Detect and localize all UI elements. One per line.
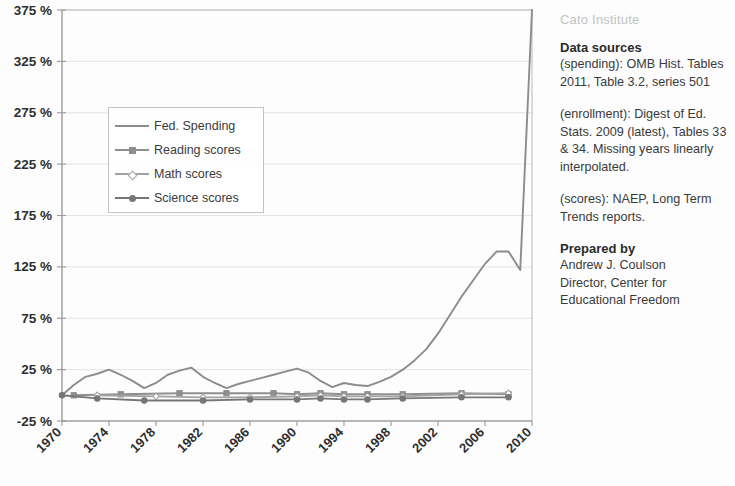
prepared-by-title: Director, Center for Educational Freedom [560, 275, 735, 310]
source-scores-text: (scores): NAEP, Long Term Trends reports… [560, 191, 735, 226]
marker-circle [59, 393, 64, 398]
spacer [560, 176, 735, 191]
x-tick-label: 1974 [80, 424, 112, 456]
brand-label: Cato Institute [560, 12, 735, 27]
marker-circle [247, 397, 252, 402]
sidebar-notes: Cato Institute Data sources (spending): … [560, 0, 735, 486]
y-tick-label: 175 % [14, 208, 52, 223]
data-sources-heading: Data sources [560, 40, 735, 55]
marker-circle [506, 395, 511, 400]
y-tick-label: 375 % [14, 3, 52, 18]
x-tick-label: 1990 [268, 425, 299, 456]
chart-region: -25 %25 %75 %125 %175 %225 %275 %325 %37… [0, 0, 540, 486]
marker-square [224, 391, 229, 396]
y-tick-label: 275 % [14, 105, 52, 120]
legend-label-reading-scores: Reading scores [154, 143, 241, 157]
x-tick-label: 2010 [503, 425, 534, 456]
source-enrollment-text: (enrollment): Digest of Ed. Stats. 2009 … [560, 106, 735, 176]
spacer [560, 91, 735, 106]
x-tick-label: 1982 [174, 425, 205, 456]
marker-circle [400, 396, 405, 401]
marker-circle [365, 397, 370, 402]
marker-square [177, 391, 182, 396]
y-tick-label: 75 % [21, 311, 52, 326]
marker-circle [341, 397, 346, 402]
marker-circle [129, 195, 136, 202]
x-tick-label: 1970 [33, 425, 64, 456]
legend-label-science-scores: Science scores [154, 191, 239, 205]
marker-circle [294, 397, 299, 402]
legend-swatch-math-scores [115, 168, 149, 180]
legend-item-math-scores: Math scores [115, 162, 257, 186]
legend-item-science-scores: Science scores [115, 186, 257, 210]
y-tick-label: 125 % [14, 259, 52, 274]
legend-swatch-fed-spending [115, 120, 149, 132]
y-tick-label: 25 % [21, 362, 52, 377]
legend-swatch-reading-scores [115, 144, 149, 156]
x-tick-label: 1994 [315, 424, 347, 456]
marker-circle [142, 398, 147, 403]
marker-circle [200, 398, 205, 403]
marker-circle [459, 395, 464, 400]
legend-item-reading-scores: Reading scores [115, 138, 257, 162]
source-spending-text: (spending): OMB Hist. Tables 2011, Table… [560, 56, 735, 91]
chart-page: -25 %25 %75 %125 %175 %225 %275 %325 %37… [0, 0, 735, 486]
prepared-by-heading: Prepared by [560, 241, 735, 256]
x-tick-label: 2002 [409, 425, 440, 456]
y-tick-label: -25 % [17, 414, 52, 429]
marker-circle [95, 396, 100, 401]
x-tick-label: 1978 [127, 425, 158, 456]
y-tick-label: 225 % [14, 157, 52, 172]
line-chart: -25 %25 %75 %125 %175 %225 %275 %325 %37… [0, 0, 540, 486]
legend-line-sample [115, 125, 149, 127]
x-tick-label: 1986 [221, 425, 252, 456]
chart-legend: Fed. Spending Reading scores Math scores… [108, 107, 264, 213]
legend-item-fed-spending: Fed. Spending [115, 114, 257, 138]
marker-circle [318, 396, 323, 401]
marker-square [129, 147, 136, 154]
marker-diamond [128, 170, 138, 180]
legend-label-fed-spending: Fed. Spending [154, 119, 235, 133]
legend-swatch-science-scores [115, 192, 149, 204]
y-tick-label: 325 % [14, 54, 52, 69]
spacer [560, 226, 735, 241]
legend-label-math-scores: Math scores [154, 167, 222, 181]
x-tick-label: 1998 [362, 425, 393, 456]
prepared-by-name: Andrew J. Coulson [560, 257, 735, 275]
marker-square [271, 391, 276, 396]
x-tick-label: 2006 [456, 425, 487, 456]
